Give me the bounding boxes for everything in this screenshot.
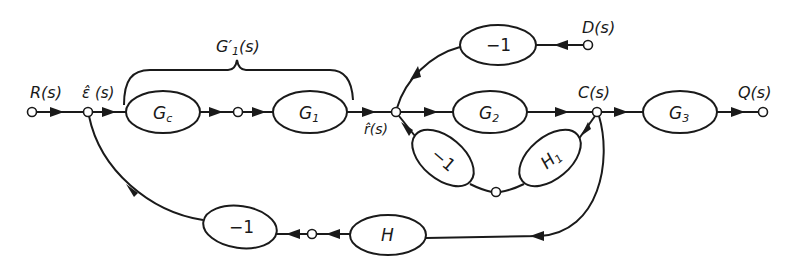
- arrow-icon: [530, 231, 544, 241]
- block-neg-outer: −1: [200, 201, 279, 253]
- arrow-icon: [410, 66, 421, 80]
- label-error: ε̂ (s): [82, 84, 114, 102]
- node-ref: [392, 108, 401, 117]
- arrow-icon: [554, 40, 568, 50]
- node-mid: [234, 108, 243, 117]
- label-r: R(s): [30, 83, 62, 102]
- node-outer: [308, 230, 317, 239]
- node-q: [759, 108, 768, 117]
- label-d: D(s): [582, 18, 615, 37]
- arrow-icon: [731, 107, 745, 117]
- block-g2: G2: [453, 91, 527, 133]
- node-d: [584, 41, 593, 50]
- block-g3: G3: [643, 91, 717, 133]
- label-ref: r̂(s): [364, 121, 388, 137]
- arrow-icon: [102, 107, 116, 117]
- block-diagram: Gc G1 G2 G3 −1 −1 H1 −1 H R(s) ε̂ (s): [0, 0, 795, 267]
- arrow-icon: [362, 107, 376, 117]
- svg-text:H: H: [381, 225, 394, 245]
- block-g1: G1: [273, 91, 347, 133]
- block-neg-d: −1: [460, 25, 536, 65]
- svg-text:−1: −1: [486, 35, 511, 55]
- arrow-icon: [252, 107, 266, 117]
- block-h: H: [350, 215, 426, 255]
- block-gc: Gc: [126, 91, 200, 133]
- arrow-icon: [209, 107, 223, 117]
- arrow-icon: [555, 107, 569, 117]
- node-c: [593, 108, 602, 117]
- label-c: C(s): [578, 83, 610, 102]
- node-inner: [492, 188, 501, 197]
- arrow-icon: [614, 107, 628, 117]
- node-error: [84, 108, 93, 117]
- arrow-icon: [326, 229, 340, 239]
- arrow-icon: [286, 229, 300, 239]
- svg-text:−1: −1: [229, 217, 254, 237]
- arrow-icon: [50, 107, 64, 117]
- label-q: Q(s): [738, 83, 771, 102]
- label-group: G′1(s): [216, 37, 260, 58]
- node-r: [28, 108, 37, 117]
- arrow-icon: [401, 122, 413, 136]
- arrow-icon: [424, 107, 438, 117]
